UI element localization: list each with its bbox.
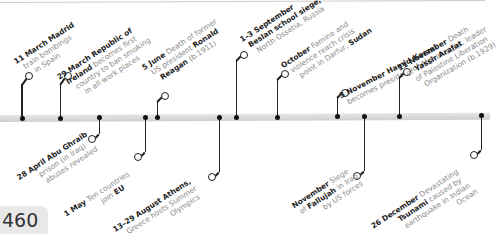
marker-stem [21, 84, 23, 119]
timeline-dot [275, 115, 280, 120]
marker-stem [145, 118, 147, 152]
timeline-dot [362, 114, 367, 119]
timeline-dot [58, 116, 63, 121]
event-marker-circle [161, 92, 169, 100]
timeline-bar [0, 113, 490, 122]
timeline-dot [20, 116, 25, 121]
event-marker-circle [208, 173, 216, 181]
page-number: 460 [0, 206, 48, 234]
marker-stem [399, 77, 401, 117]
marker-stem [236, 60, 238, 118]
timeline-dot [397, 114, 402, 119]
marker-stem [219, 117, 221, 172]
timeline-dot [217, 115, 222, 120]
timeline-dot [155, 115, 160, 120]
event-november-fallujah: November Siege of Fallujah in Iraq by US… [284, 164, 364, 229]
timeline-dot [335, 114, 340, 119]
marker-stem [99, 118, 101, 134]
event-28-april: 28 April Abu Ghraib prison (in Iraq) abu… [15, 129, 99, 197]
event-marker-circle [134, 153, 142, 161]
top-rule [0, 0, 485, 3]
timeline-dot [234, 115, 239, 120]
event-marker-circle [240, 51, 248, 59]
marker-stem [481, 116, 483, 150]
marker-stem [277, 79, 279, 118]
timeline-dot [479, 113, 484, 118]
event-marker-circle [470, 151, 478, 159]
marker-stem [60, 84, 62, 119]
event-11-november: 11 November Death of Yassir Arafat, lead… [396, 17, 497, 96]
event-26-december: 26 December Devastating Tsunami caused b… [369, 164, 479, 240]
marker-stem [364, 117, 366, 171]
timeline-dot [97, 115, 102, 120]
timeline-dot [143, 115, 148, 120]
